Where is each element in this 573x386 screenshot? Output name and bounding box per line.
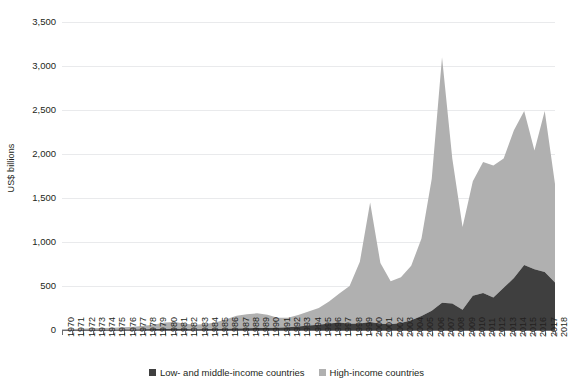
x-tick-label: 2002 <box>395 317 405 337</box>
x-tick-label: 1997 <box>343 317 353 337</box>
y-tick-label: 1,000 <box>10 237 56 246</box>
x-tick-label: 1974 <box>107 317 117 337</box>
x-tick-label: 1970 <box>66 317 76 337</box>
y-tick-label: 2,500 <box>10 105 56 114</box>
x-tick-label: 1999 <box>364 317 374 337</box>
x-tick-label: 1985 <box>220 317 230 337</box>
x-tick-label: 2017 <box>549 317 559 337</box>
plot-area <box>62 22 555 330</box>
x-tick-label: 2008 <box>456 317 466 337</box>
y-tick-label: 3,000 <box>10 61 56 70</box>
x-tick-label: 2003 <box>405 317 415 337</box>
chart-legend: Low- and middle-income countriesHigh-inc… <box>0 367 573 378</box>
legend-swatch-icon <box>149 369 156 376</box>
x-tick-label: 1978 <box>148 317 158 337</box>
y-tick-label: 2,000 <box>10 149 56 158</box>
x-tick-label: 1987 <box>241 317 251 337</box>
area-high-income-countries <box>62 57 555 330</box>
x-tick-label: 1973 <box>97 317 107 337</box>
y-tick-label: 500 <box>10 281 56 290</box>
x-tick-label: 1971 <box>76 317 86 337</box>
legend-item[interactable]: High-income countries <box>319 367 425 378</box>
x-tick-label: 2009 <box>467 317 477 337</box>
x-tick-label: 1990 <box>271 317 281 337</box>
x-tick-label: 1992 <box>292 317 302 337</box>
x-tick-label: 2006 <box>436 317 446 337</box>
x-tick-label: 1994 <box>313 317 323 337</box>
x-tick-label: 1977 <box>138 317 148 337</box>
x-tick-label: 2010 <box>477 317 487 337</box>
x-tick-label: 1988 <box>251 317 261 337</box>
stacked-area-series <box>62 22 555 330</box>
legend-swatch-icon <box>319 369 326 376</box>
y-axis-ticks: 3,5003,0002,5002,0001,5001,0005000 <box>6 0 56 386</box>
x-tick-label: 2012 <box>497 317 507 337</box>
legend-label: High-income countries <box>330 367 425 378</box>
x-tick-label: 2011 <box>487 318 497 337</box>
x-tick-label: 1983 <box>200 317 210 337</box>
x-tick-label: 1981 <box>179 317 189 337</box>
x-tick-label: 2004 <box>415 317 425 337</box>
x-tick-label: 2014 <box>518 317 528 337</box>
x-tick <box>62 331 63 335</box>
y-tick-label: 1,500 <box>10 193 56 202</box>
x-tick-label: 1984 <box>210 317 220 337</box>
x-tick-label: 1976 <box>128 317 138 337</box>
x-tick-label: 1980 <box>169 317 179 337</box>
x-tick-label: 2018 <box>559 317 569 337</box>
chart-container: US$ billions 3,5003,0002,5002,0001,5001,… <box>0 0 573 386</box>
x-tick-label: 1998 <box>354 317 364 337</box>
legend-item[interactable]: Low- and middle-income countries <box>149 367 305 378</box>
x-tick-label: 2005 <box>425 317 435 337</box>
legend-label: Low- and middle-income countries <box>160 367 305 378</box>
x-tick-label: 1993 <box>302 317 312 337</box>
x-tick-label: 1979 <box>158 317 168 337</box>
x-tick-label: 2013 <box>508 317 518 337</box>
x-tick-label: 2015 <box>528 317 538 337</box>
y-tick-label: 0 <box>10 325 56 334</box>
x-tick-label: 1995 <box>323 317 333 337</box>
x-tick-label: 1975 <box>117 317 127 337</box>
x-tick-label: 1989 <box>261 317 271 337</box>
x-tick-label: 1991 <box>282 317 292 337</box>
y-tick-label: 3,500 <box>10 17 56 26</box>
x-tick-label: 2001 <box>384 317 394 337</box>
x-tick-label: 1996 <box>333 317 343 337</box>
x-tick-label: 1982 <box>189 317 199 337</box>
x-tick-label: 1972 <box>87 317 97 337</box>
x-tick-label: 2016 <box>538 317 548 337</box>
x-tick-label: 2007 <box>446 317 456 337</box>
x-tick-label: 1986 <box>230 317 240 337</box>
x-tick-label: 2000 <box>374 317 384 337</box>
